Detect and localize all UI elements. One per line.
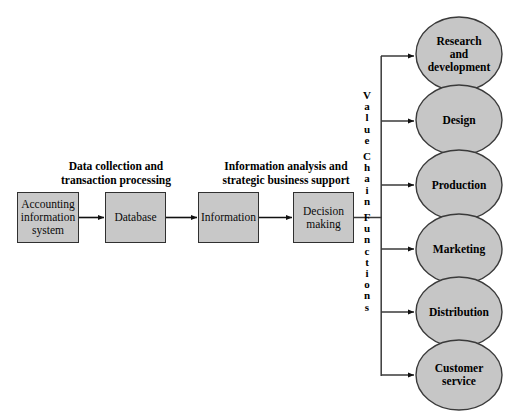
- ellipse-customer-service: [416, 340, 502, 410]
- spine-letter: n: [358, 196, 376, 207]
- ellipse-design: [416, 85, 502, 155]
- box-line-1: Accounting: [21, 198, 75, 211]
- caption-information-analysis: Information analysis and strategic busin…: [196, 160, 376, 187]
- spine-letter: a: [358, 173, 376, 184]
- box-line-2: making: [303, 218, 344, 231]
- box-line-1: Database: [114, 211, 156, 224]
- ellipse-distribution: [416, 277, 502, 347]
- caption-line-2: transaction processing: [30, 174, 202, 188]
- spine-letter: l: [358, 112, 376, 123]
- box-database[interactable]: Database: [105, 192, 166, 243]
- box-line-2: information: [21, 211, 75, 224]
- box-line-1: Information: [201, 211, 256, 224]
- spine-letter: n: [358, 290, 376, 301]
- ellipse-production: [416, 150, 502, 220]
- value-chain-ellipses: [416, 17, 502, 410]
- spine-letter: n: [358, 234, 376, 245]
- spine-letter: s: [358, 302, 376, 313]
- box-information[interactable]: Information: [198, 192, 259, 243]
- ellipse-marketing: [416, 214, 502, 284]
- spine-letter: e: [358, 135, 376, 146]
- value-chain-functions-label: ValueChainFunctions: [358, 90, 376, 313]
- box-decision-making[interactable]: Decision making: [293, 192, 354, 243]
- caption-line-1: Data collection and: [30, 160, 202, 174]
- ellipse-research-and-development: [416, 17, 502, 91]
- value-chain-arrows: [381, 56, 414, 375]
- box-accounting-information-system[interactable]: Accounting information system: [17, 192, 79, 243]
- caption-line-2: strategic business support: [196, 174, 376, 188]
- caption-data-collection: Data collection and transaction processi…: [30, 160, 202, 187]
- diagram-canvas: Data collection and transaction processi…: [0, 0, 516, 418]
- box-line-1: Decision: [303, 205, 344, 218]
- caption-line-1: Information analysis and: [196, 160, 376, 174]
- box-line-3: system: [21, 224, 75, 237]
